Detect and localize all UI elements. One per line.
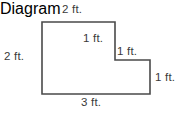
dimension-label-step-horizontal: 1 ft. (117, 46, 137, 58)
dimension-label-right: 1 ft. (155, 72, 175, 84)
dimension-label-top: 2 ft. (62, 4, 82, 16)
dimension-label-left: 2 ft. (4, 51, 24, 63)
dimension-label-bottom: 3 ft. (81, 97, 101, 109)
dimension-label-step-vertical: 1 ft. (83, 33, 103, 45)
